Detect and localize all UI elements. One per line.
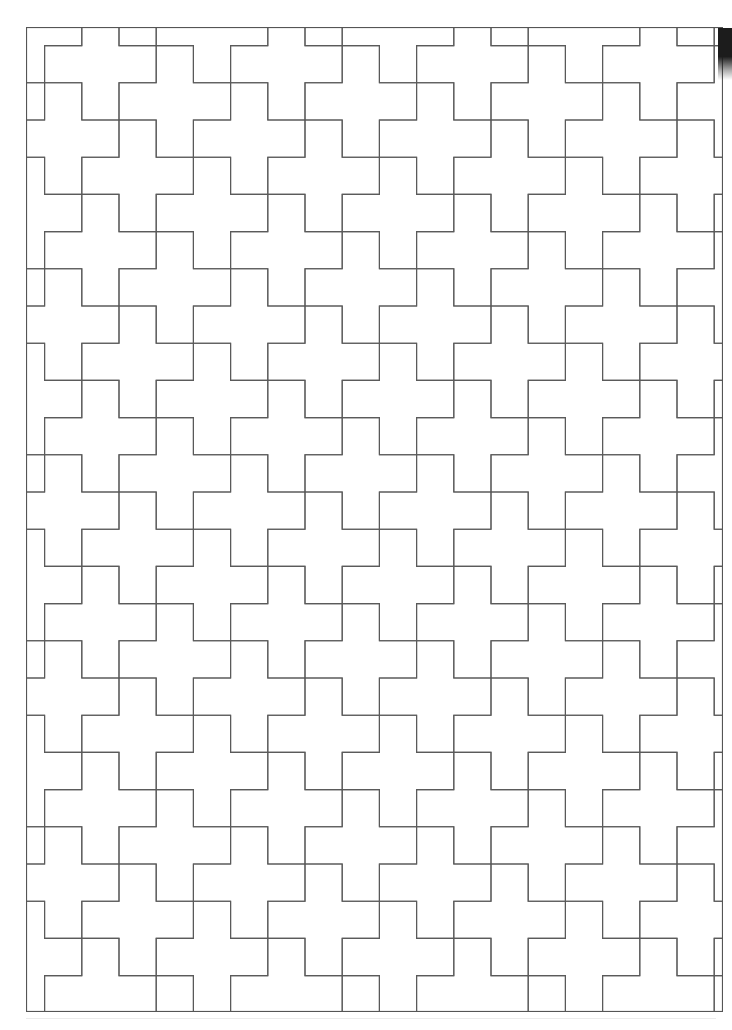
cross-tile [714,157,723,269]
cross-tile [342,27,454,83]
cross-tile [677,46,723,158]
cross-tile [714,529,723,641]
cross-tile [193,83,305,195]
cross-tile [156,901,268,1012]
cross-tile [640,27,723,46]
cross-tile [26,157,82,269]
cross-tile [193,641,305,753]
cross-tile [454,678,566,790]
cross-tile [677,232,723,344]
cross-tile [82,492,194,604]
cross-tile [342,157,454,269]
cross-tile [677,790,723,902]
cross-tile [26,418,45,530]
cross-tile [305,418,417,530]
cross-tile [342,343,454,455]
cross-tile [565,455,677,567]
cross-tile [491,604,603,716]
cross-tile [305,976,417,1012]
cross-tile [603,566,715,678]
cross-tile [268,306,380,418]
cross-tile [268,678,380,790]
cross-tile [193,269,305,381]
cross-tile [603,27,715,120]
cross-tile [119,604,231,716]
cross-tile [193,827,305,939]
cross-tile [231,380,343,492]
cross-tile [231,566,343,678]
cross-tile [565,83,677,195]
cross-tile [528,343,640,455]
cross-tile [491,418,603,530]
cross-tile [26,529,82,641]
cross-tile [640,864,723,976]
cross-tile [565,641,677,753]
cross-tile [454,120,566,232]
cross-tile [156,27,268,83]
cross-tile [491,232,603,344]
cross-tile [119,976,231,1012]
cross-tile [603,194,715,306]
cross-tile [82,27,194,46]
cross-tile [528,901,640,1012]
cross-tile [379,83,491,195]
cross-tile [268,27,380,46]
cross-tile [45,380,157,492]
cross-tile [82,864,194,976]
cross-tile [528,529,640,641]
tessellation-frame [26,27,723,1012]
cross-tile [640,306,723,418]
cross-tile [677,418,723,530]
cross-tile [417,566,529,678]
cross-tile [454,27,566,46]
cross-tile [528,27,640,83]
cross-tile [26,715,82,827]
cross-tile [156,715,268,827]
cross-tile [119,418,231,530]
scan-baseline-artifact [26,1018,716,1019]
cross-tile [156,343,268,455]
cross-tile [640,678,723,790]
page-canvas [0,0,732,1030]
cross-tile [305,604,417,716]
cross-tile [82,678,194,790]
cross-tile [26,46,45,158]
cross-tile [119,790,231,902]
cross-tile [26,27,82,83]
cross-tile [26,269,119,381]
cross-tile [119,46,231,158]
cross-tile [379,455,491,567]
cross-tile [640,492,723,604]
cross-tile [26,604,45,716]
cross-tile [26,455,119,567]
cross-tile [565,827,677,939]
cross-tile [156,157,268,269]
cross-tile [193,455,305,567]
cross-tile [268,864,380,976]
cross-tile [45,752,157,864]
cross-tile [454,864,566,976]
cross-tile [268,492,380,604]
cross-tile [491,976,603,1012]
cross-tile [26,976,45,1012]
cross-tile [342,529,454,641]
cross-tile [454,492,566,604]
cross-tile [491,46,603,158]
cross-tile [26,827,119,939]
cross-tile [714,27,723,83]
cross-tile [714,343,723,455]
cross-tile [26,790,45,902]
cross-tile [26,83,119,195]
cross-tile [379,641,491,753]
cross-tile [677,604,723,716]
cross-tile [417,194,529,306]
cross-tile [342,715,454,827]
cross-tile [640,120,723,232]
cross-tile [231,752,343,864]
cross-tile [231,194,343,306]
cross-tile [26,343,82,455]
cross-tile [379,269,491,381]
cross-tile [26,901,82,1012]
cross-tile [45,27,157,120]
cross-tile [603,380,715,492]
